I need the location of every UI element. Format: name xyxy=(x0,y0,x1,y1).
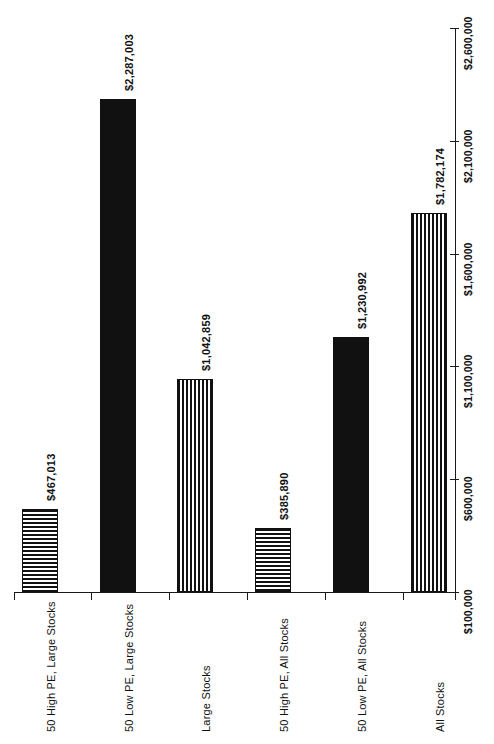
bar-value-label-2: $1,042,859 xyxy=(200,314,212,371)
bar-value-label-3: $385,890 xyxy=(278,472,290,519)
category-label-1: 50 Low PE, Large Stocks xyxy=(123,604,135,732)
bar-value-label-1: $2,287,003 xyxy=(123,34,135,91)
bar-2 xyxy=(177,379,213,592)
category-tick-1 xyxy=(91,592,92,600)
bar-0 xyxy=(22,509,58,592)
value-tick-5 xyxy=(450,28,459,29)
value-tick-label-2: $1,100,000 xyxy=(462,355,474,409)
category-tick-5 xyxy=(403,592,404,600)
category-tick-6 xyxy=(455,592,456,600)
chart-canvas: $100,000$600,000$1,100,000$1,600,000$2,1… xyxy=(0,0,494,744)
bar-value-label-0: $467,013 xyxy=(45,454,57,501)
category-tick-0 xyxy=(14,592,15,600)
category-label-5: All Stocks xyxy=(434,682,446,732)
value-tick-label-1: $600,000 xyxy=(462,477,474,522)
value-tick-label-5: $2,600,000 xyxy=(462,16,474,70)
bar-5 xyxy=(411,213,447,592)
value-tick-label-4: $2,100,000 xyxy=(462,129,474,183)
value-tick-1 xyxy=(450,479,459,480)
value-tick-3 xyxy=(450,254,459,255)
value-tick-2 xyxy=(450,366,459,367)
category-tick-4 xyxy=(325,592,326,600)
bar-value-label-4: $1,230,992 xyxy=(356,272,368,329)
category-label-0: 50 High PE, Large Stocks xyxy=(45,601,57,732)
category-axis-line xyxy=(14,592,455,593)
category-label-4: 50 Low PE, All Stocks xyxy=(356,621,368,732)
category-label-2: Large Stocks xyxy=(200,665,212,732)
category-tick-2 xyxy=(169,592,170,600)
category-label-3: 50 High PE, All Stocks xyxy=(278,618,290,732)
value-tick-label-3: $1,600,000 xyxy=(462,242,474,296)
bar-4 xyxy=(333,337,369,592)
value-tick-4 xyxy=(450,141,459,142)
category-tick-3 xyxy=(247,592,248,600)
bar-1 xyxy=(100,99,136,592)
bar-value-label-5: $1,782,174 xyxy=(434,147,446,204)
value-axis-line xyxy=(455,28,456,593)
bar-3 xyxy=(255,528,291,592)
value-tick-label-0: $100,000 xyxy=(462,589,474,634)
